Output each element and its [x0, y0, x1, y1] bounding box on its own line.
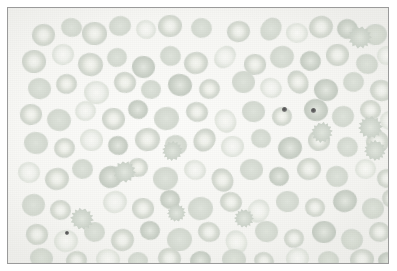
erythrocyte: [158, 43, 184, 68]
platelet: [282, 107, 287, 112]
erythrocyte: [133, 17, 158, 42]
erythrocyte: [107, 14, 133, 39]
erythrocyte: [257, 74, 285, 101]
erythrocyte: [182, 50, 210, 77]
erythrocyte: [45, 107, 73, 134]
erythrocyte: [19, 103, 43, 126]
erythrocyte: [71, 158, 94, 180]
erythrocyte: [304, 196, 327, 218]
erythrocyte: [368, 221, 388, 243]
erythrocyte: [325, 43, 349, 67]
erythrocyte: [101, 107, 126, 131]
erythrocyte: [324, 164, 350, 189]
micrograph-frame: [7, 7, 389, 264]
erythrocyte: [189, 124, 220, 156]
erythrocyte: [157, 14, 183, 38]
screenshot-viewport: [0, 0, 397, 271]
erythrocyte: [20, 192, 47, 218]
erythrocyte: [182, 157, 209, 182]
erythrocyte: [220, 135, 245, 158]
erythrocyte: [189, 249, 213, 263]
erythrocyte: [54, 72, 79, 96]
erythrocyte: [79, 128, 103, 151]
erythrocyte: [254, 220, 280, 244]
erythrocyte: [166, 72, 194, 98]
erythrocyte: [100, 188, 129, 216]
erythrocyte: [283, 67, 312, 98]
erythrocyte: [50, 42, 75, 66]
erythrocyte: [152, 105, 180, 132]
erythrocyte: [252, 249, 277, 263]
erythrocyte: [127, 251, 148, 263]
erythrocyte: [125, 97, 150, 122]
erythrocyte: [23, 130, 50, 155]
erythrocyte: [131, 197, 154, 219]
erythrocyte: [105, 133, 130, 157]
erythrocyte: [225, 19, 252, 44]
erythrocyte: [231, 70, 255, 94]
erythrocyte: [196, 76, 222, 102]
erythrocyte: [31, 23, 57, 48]
erythrocyte: [330, 187, 360, 216]
erythrocyte: [256, 13, 286, 44]
erythrocyte: [208, 164, 238, 195]
erythrocyte: [131, 55, 157, 80]
erythrocyte: [104, 45, 129, 70]
erythrocyte: [341, 70, 365, 94]
erythrocyte: [21, 49, 46, 73]
erythrocyte: [354, 158, 377, 180]
erythrocyte: [329, 103, 357, 130]
erythrocyte: [138, 219, 162, 242]
erythrocyte: [52, 136, 77, 161]
erythrocyte: [375, 167, 388, 189]
erythrocyte: [275, 190, 300, 213]
erythrocyte: [59, 16, 83, 39]
erythrocyte: [152, 166, 179, 191]
erythrocyte: [43, 166, 71, 193]
erythrocyte: [16, 160, 41, 185]
erythrocyte: [196, 219, 223, 245]
erythrocyte: [49, 199, 72, 221]
erythrocyte: [249, 126, 274, 150]
erythrocyte: [81, 21, 108, 46]
erythrocyte: [311, 220, 336, 243]
erythrocyte: [211, 106, 240, 137]
erythrocyte: [285, 22, 309, 44]
erythrocyte: [298, 49, 323, 73]
blood-smear-field: [8, 8, 388, 263]
erythrocyte: [239, 158, 264, 181]
erythrocyte: [276, 135, 304, 161]
platelet: [311, 108, 316, 113]
erythrocyte: [317, 250, 340, 263]
erythrocyte: [134, 126, 162, 152]
erythrocyte: [210, 41, 241, 72]
erythrocyte: [295, 156, 322, 181]
erythrocyte: [282, 227, 306, 250]
erythrocyte: [284, 246, 311, 263]
erythrocyte: [76, 51, 105, 78]
erythrocyte: [241, 100, 266, 124]
erythrocyte: [266, 164, 291, 189]
erythrocyte: [24, 222, 49, 246]
erythrocyte: [306, 13, 336, 41]
erythrocyte: [376, 250, 388, 263]
erythrocyte: [190, 16, 214, 39]
erythrocyte: [26, 76, 52, 100]
erythrocyte: [187, 195, 215, 221]
platelet: [65, 231, 69, 235]
erythrocyte: [218, 190, 244, 215]
erythrocyte: [140, 79, 162, 100]
erythrocyte: [29, 247, 54, 263]
erythrocyte: [334, 134, 361, 161]
erythrocyte: [267, 43, 296, 71]
erythrocyte: [184, 100, 210, 125]
